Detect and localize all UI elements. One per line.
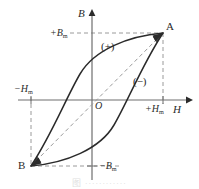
tick-label-b-negative: −Bm (99, 161, 117, 171)
tick-label-h-positive: +Hm (145, 104, 164, 114)
figure-caption: 图 ············ (0, 176, 199, 188)
horizontal-axis-arrow-icon (186, 97, 193, 104)
tick-label-h-negative: −Hm (14, 84, 33, 94)
branch-label-descending: (−) (133, 76, 147, 87)
tick-label-h-positive-text: +H (145, 103, 159, 114)
point-label-b: B (18, 160, 25, 171)
vertical-axis-label: B (78, 8, 85, 19)
tick-label-h-negative-sub: m (28, 88, 33, 95)
vertical-axis-arrow-icon (89, 9, 96, 16)
origin-label: O (95, 101, 102, 111)
tick-label-h-negative-text: −H (14, 83, 28, 94)
tick-label-b-negative-sub: m (112, 165, 117, 172)
tick-label-h-positive-sub: m (159, 108, 164, 115)
branch-label-ascending: (+) (101, 41, 115, 52)
hysteresis-loop-figure: B H +Bm −Bm −Hm +Hm A B O (+) (−) 图 ····… (0, 0, 199, 189)
tick-label-b-positive-sub: m (63, 32, 68, 39)
horizontal-axis-label: H (173, 104, 181, 115)
tick-label-b-negative-text: −B (99, 160, 112, 171)
point-label-a: A (166, 21, 174, 32)
tick-label-b-positive-text: +B (50, 27, 63, 38)
tick-label-b-positive: +Bm (50, 28, 68, 38)
